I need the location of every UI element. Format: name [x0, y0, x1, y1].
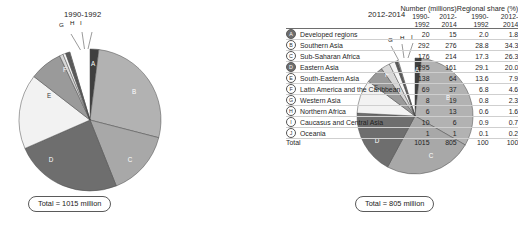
- bullet-icon-g: G: [286, 95, 296, 105]
- table-row: GWestern Asia 8 19 0.8 2.3: [286, 95, 518, 106]
- row-p2-b: 34.3: [489, 40, 518, 51]
- subheader-n-2012-bottom: 2014: [442, 21, 457, 28]
- total-row-p1: 100: [457, 139, 489, 147]
- row-label-text-a: Developed regions: [300, 31, 357, 38]
- leader-line-i: [88, 32, 92, 49]
- group-header-spacer: [286, 4, 400, 13]
- row-label-g: GWestern Asia: [286, 95, 400, 106]
- subheader-p-1990-top: 1990-: [471, 13, 488, 20]
- subheader-n-1990-bottom: 1992: [414, 21, 429, 28]
- pie-slice-label-b: B: [132, 88, 136, 95]
- row-p2-h: 1.6: [489, 106, 518, 117]
- bullet-icon-c: C: [286, 51, 296, 61]
- bullet-icon-f: F: [286, 84, 296, 94]
- row-n1-d: 295: [400, 62, 429, 73]
- subheader-n-2012-top: 2012-: [439, 13, 456, 20]
- bullet-icon-j: J: [286, 128, 296, 138]
- bullet-icon-b: B: [286, 40, 296, 50]
- row-label-text-j: Oceania: [300, 130, 326, 137]
- bullet-icon-d: D: [286, 62, 296, 72]
- row-n2-i: 6: [430, 117, 457, 128]
- table-row: FLatin America and the Caribbean 69 37 6…: [286, 84, 518, 95]
- row-n1-h: 6: [400, 106, 429, 117]
- row-n1-f: 69: [400, 84, 429, 95]
- bullet-icon-i: I: [286, 117, 296, 127]
- subheader-p-1990-bottom: 1992: [473, 21, 488, 28]
- row-p1-e: 13.6: [457, 73, 489, 84]
- subheader-n-2012: 2012- 2014: [430, 13, 457, 28]
- subheader-n-1990-top: 1990-: [412, 13, 429, 20]
- row-label-e: ESouth-Eastern Asia: [286, 73, 400, 84]
- row-p1-d: 29.1: [457, 62, 489, 73]
- row-n2-c: 214: [430, 51, 457, 62]
- table-row: HNorthern Africa 6 13 0.6 1.6: [286, 106, 518, 117]
- bullet-icon-a: A: [286, 29, 296, 39]
- table-row: DEastern Asia 295 161 29.1 20.0: [286, 62, 518, 73]
- row-p1-b: 28.8: [457, 40, 489, 51]
- row-n1-a: 20: [400, 29, 429, 40]
- subheader-p-1990: 1990- 1992: [457, 13, 489, 28]
- subheader-p-2012-bottom: 2014: [503, 21, 518, 28]
- row-label-text-c: Sub-Saharan Africa: [300, 53, 360, 60]
- pie-slice-label-e: E: [47, 92, 51, 99]
- regional-data-table: Number (millions) Regional share (%) 199…: [286, 4, 518, 146]
- row-label-a: ADeveloped regions: [286, 29, 400, 40]
- subheader-spacer: [286, 13, 400, 28]
- table-row: ESouth-Eastern Asia 138 64 13.6 7.9: [286, 73, 518, 84]
- row-n1-b: 292: [400, 40, 429, 51]
- group-header-number: Number (millions): [400, 4, 456, 13]
- pie-slice-label-d: D: [49, 156, 54, 163]
- table-row: ICaucasus and Central Asia 10 6 0.9 0.7: [286, 117, 518, 128]
- row-n1-j: 1: [400, 128, 429, 139]
- subheader-p-2012-top: 2012-: [501, 13, 518, 20]
- row-p2-e: 7.9: [489, 73, 518, 84]
- total-row-n2: 805: [430, 139, 457, 147]
- pie-slice-label-c: C: [128, 156, 133, 163]
- row-label-b: BSouthern Asia: [286, 40, 400, 51]
- row-label-h: HNorthern Africa: [286, 106, 400, 117]
- row-p1-g: 0.8: [457, 95, 489, 106]
- pie-title-1990-1992: 1990-1992: [64, 10, 101, 19]
- row-label-text-g: Western Asia: [300, 97, 340, 104]
- row-n1-g: 8: [400, 95, 429, 106]
- subheader-p-2012: 2012- 2014: [489, 13, 518, 28]
- row-n1-c: 176: [400, 51, 429, 62]
- pie-chart-2012-2014: 2012-2014 G H I: [172, 0, 292, 227]
- row-p1-c: 17.3: [457, 51, 489, 62]
- bullet-icon-h: H: [286, 106, 296, 116]
- row-p1-f: 6.8: [457, 84, 489, 95]
- leader-line-h: [82, 32, 85, 49]
- total-row-n1: 1015: [400, 139, 429, 147]
- row-p1-i: 0.9: [457, 117, 489, 128]
- row-n2-f: 37: [430, 84, 457, 95]
- row-p1-j: 0.1: [457, 128, 489, 139]
- row-label-text-b: Southern Asia: [300, 42, 343, 49]
- row-n2-e: 64: [430, 73, 457, 84]
- row-n1-i: 10: [400, 117, 429, 128]
- row-label-i: ICaucasus and Central Asia: [286, 117, 400, 128]
- row-label-j: JOceania: [286, 128, 400, 139]
- pie-chart-1990-1992: 1990-1992 G H I: [2, 0, 177, 227]
- table-row: CSub-Saharan Africa 176 214 17.3 26.3: [286, 51, 518, 62]
- row-n2-h: 13: [430, 106, 457, 117]
- row-label-text-i: Caucasus and Central Asia: [300, 119, 383, 126]
- row-p2-j: 0.2: [489, 128, 518, 139]
- row-p1-a: 2.0: [457, 29, 489, 40]
- table-total-row: Total 1015 805 100 100: [286, 139, 518, 147]
- row-label-c: CSub-Saharan Africa: [286, 51, 400, 62]
- row-label-f: FLatin America and the Caribbean: [286, 84, 400, 95]
- row-n2-a: 15: [430, 29, 457, 40]
- table-subheader-row: 1990- 1992 2012- 2014 1990- 1992 2012- 2…: [286, 13, 518, 28]
- row-n1-e: 138: [400, 73, 429, 84]
- pie-svg-1990-1992: A B C D E F: [10, 22, 170, 194]
- row-label-text-d: Eastern Asia: [300, 64, 339, 71]
- row-p2-i: 0.7: [489, 117, 518, 128]
- row-p2-g: 2.3: [489, 95, 518, 106]
- table-group-header-row: Number (millions) Regional share (%): [286, 4, 518, 13]
- subheader-n-1990: 1990- 1992: [400, 13, 429, 28]
- row-p2-c: 26.3: [489, 51, 518, 62]
- bullet-icon-e: E: [286, 73, 296, 83]
- row-p1-h: 0.6: [457, 106, 489, 117]
- row-p2-a: 1.8: [489, 29, 518, 40]
